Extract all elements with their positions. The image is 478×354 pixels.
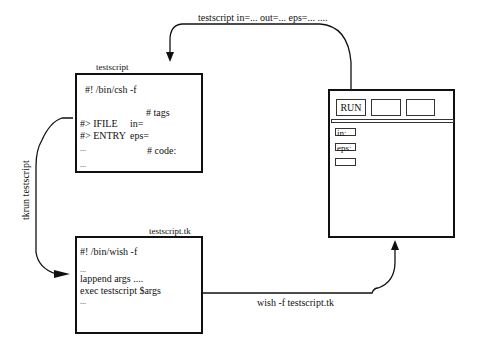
edge-label-run-command: testscript in=... out=... eps=... .... (198, 12, 327, 23)
testscript-box: #! /bin/csh -f # tags #> IFILE in= #> EN… (75, 73, 203, 173)
testscript-box-title: testscript (96, 62, 129, 72)
eps-field[interactable]: eps: (335, 143, 356, 151)
ellipsis: ... (80, 159, 86, 170)
edge-label-tkrun: tkrun testscript (20, 160, 31, 220)
tk-script-box: #! /bin/wish -f ... lappend args .... ex… (75, 236, 203, 334)
shebang-line: #! /bin/csh -f (85, 84, 137, 95)
blank-button-2[interactable] (371, 99, 401, 116)
ellipsis: ... (80, 296, 86, 307)
in-field[interactable]: in: (335, 128, 356, 136)
blank-field[interactable] (335, 158, 356, 166)
gui-window: RUN in: eps: (328, 89, 455, 238)
separator-bar (331, 119, 454, 123)
tags-comment: # tags (146, 107, 170, 118)
exec-line: exec testscript $args (80, 285, 161, 296)
run-button[interactable]: RUN (336, 99, 366, 116)
entry-directive: #> ENTRY (80, 130, 126, 141)
tk-box-title: testscript.tk (149, 226, 191, 236)
eps-param: eps= (130, 130, 149, 141)
diagram-canvas: testscript in=... out=... eps=... .... t… (0, 0, 478, 354)
ifile-directive: #> IFILE (80, 118, 118, 129)
in-param: in= (130, 118, 143, 129)
edge-label-wish: wish -f testscript.tk (257, 297, 334, 308)
wish-shebang: #! /bin/wish -f (80, 246, 137, 257)
lappend-line: lappend args .... (80, 273, 143, 284)
blank-button-3[interactable] (406, 99, 435, 116)
code-comment: # code: (147, 145, 176, 156)
ellipsis: ... (80, 143, 86, 154)
